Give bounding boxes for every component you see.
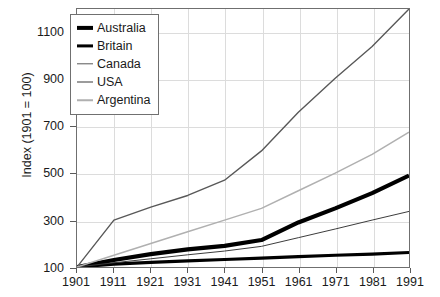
legend-label: Australia	[97, 21, 146, 35]
legend-swatch-icon	[77, 58, 93, 70]
legend-label: Britain	[97, 39, 132, 53]
legend-item-britain: Britain	[77, 37, 151, 55]
x-axis-tick	[187, 268, 188, 273]
chart-legend: AustraliaBritainCanadaUSAArgentina	[70, 14, 159, 115]
line-chart: Index (1901 = 100) 1003005007009001100 1…	[0, 0, 440, 297]
legend-swatch-icon	[77, 76, 93, 88]
legend-label: Argentina	[97, 93, 151, 107]
legend-item-canada: Canada	[77, 55, 151, 73]
x-axis-tick-label: 1991	[387, 275, 433, 289]
x-axis-tick	[262, 268, 263, 273]
legend-item-usa: USA	[77, 73, 151, 91]
x-axis-tick	[150, 268, 151, 273]
x-axis-tick	[113, 268, 114, 273]
x-axis-tick	[336, 268, 337, 273]
y-axis-tick-label: 100	[24, 261, 64, 275]
x-axis-tick	[224, 268, 225, 273]
y-axis-tick-label: 700	[24, 119, 64, 133]
legend-item-argentina: Argentina	[77, 91, 151, 109]
x-axis-tick	[76, 268, 77, 273]
y-axis-tick-label: 900	[24, 72, 64, 86]
x-axis-tick	[410, 268, 411, 273]
x-axis-tick	[299, 268, 300, 273]
legend-swatch-icon	[77, 22, 93, 34]
y-axis-tick-label: 300	[24, 214, 64, 228]
y-axis-tick-label: 1100	[24, 25, 64, 39]
legend-label: USA	[97, 75, 123, 89]
x-axis-tick	[373, 268, 374, 273]
legend-swatch-icon	[77, 94, 93, 106]
legend-item-australia: Australia	[77, 19, 151, 37]
legend-swatch-icon	[77, 40, 93, 52]
legend-label: Canada	[97, 57, 141, 71]
y-axis-tick-label: 500	[24, 166, 64, 180]
